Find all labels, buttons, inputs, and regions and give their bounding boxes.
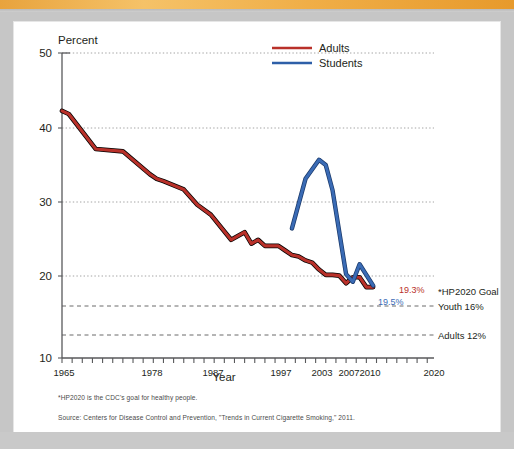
ytick-label-10: 10 <box>39 352 52 364</box>
legend-label-adults: Adults <box>319 42 350 54</box>
reference-lines <box>62 306 434 335</box>
line-chart-svg: 50 40 30 20 10 1965 1978 1987 1997 2003 … <box>14 22 500 432</box>
ytick-label-40: 40 <box>39 122 52 134</box>
x-tick-marks <box>62 358 427 363</box>
xtick-label-1978: 1978 <box>141 367 162 378</box>
xtick-label-2003: 2003 <box>311 367 332 378</box>
xtick-label-1965: 1965 <box>53 367 74 378</box>
annotation-youth-16: Youth 16% <box>438 301 484 312</box>
chart-card: Percent Year <box>14 22 500 432</box>
ytick-label-30: 30 <box>39 196 52 208</box>
footnote-source: Source: Centers for Disease Control and … <box>58 414 355 421</box>
series-line-adults <box>62 111 373 287</box>
ytick-label-20: 20 <box>39 270 52 282</box>
series-line-adults-top <box>62 111 373 287</box>
annotation-hp2020-goal: *HP2020 Goal <box>438 286 499 297</box>
gridlines <box>62 53 434 276</box>
xtick-label-1997: 1997 <box>270 367 291 378</box>
axes <box>62 53 434 358</box>
xtick-label-2010: 2010 <box>359 367 380 378</box>
decorative-top-bar <box>0 0 514 9</box>
annotation-adults-endpoint: 19.3% <box>399 285 425 295</box>
footnote-hp2020: *HP2020 is the CDC's goal for healthy pe… <box>58 394 198 401</box>
series-line-students-top <box>292 160 373 286</box>
annotation-adults-12: Adults 12% <box>438 330 487 341</box>
figure-bottom-margin <box>0 432 514 449</box>
figure-page: Percent Year <box>0 0 514 449</box>
xtick-label-2007: 2007 <box>338 367 359 378</box>
legend-label-students: Students <box>319 57 363 69</box>
legend: Adults Students <box>272 42 363 69</box>
ytick-label-50: 50 <box>39 47 52 59</box>
annotation-students-endpoint: 19.5% <box>378 297 404 307</box>
xtick-label-1987: 1987 <box>202 367 223 378</box>
xtick-label-2020: 2020 <box>423 367 444 378</box>
chart-plot-area: Percent Year <box>14 22 500 432</box>
